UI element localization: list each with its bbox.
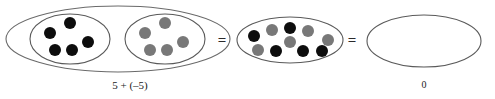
counter-dot: [177, 36, 189, 48]
equals-sign-2: =: [348, 32, 357, 48]
counter-dot: [44, 27, 56, 39]
expression-label: 5 + (–5): [112, 79, 148, 92]
counter-dot: [284, 22, 296, 34]
counter-dot: [322, 34, 334, 46]
counter-dot: [49, 44, 61, 56]
counter-dot: [64, 17, 76, 29]
counter-dot: [302, 25, 314, 37]
counter-dot: [284, 36, 296, 48]
positive-counter-dots: [44, 17, 94, 56]
positive-group: [30, 14, 110, 64]
counter-dot: [270, 45, 282, 57]
figure-canvas: = = 5 + (–5) 0: [0, 0, 495, 99]
negative-counter-dots: [139, 17, 189, 56]
zero-pair-model-diagram: = = 5 + (–5) 0: [0, 0, 495, 99]
equals-sign-1: =: [218, 32, 227, 48]
counter-dot: [252, 44, 264, 56]
counter-dot: [316, 45, 328, 57]
empty-result-ellipse: [367, 15, 481, 67]
combined-outer-group-ellipse: [6, 6, 230, 72]
combined-counters-group: [237, 17, 343, 63]
counter-dot: [144, 44, 156, 56]
counter-dot: [297, 45, 309, 57]
empty-result-group: [367, 15, 481, 67]
counter-dot: [161, 44, 173, 56]
counter-dot: [266, 24, 278, 36]
counter-dot: [159, 17, 171, 29]
counter-dot: [66, 44, 78, 56]
combined-counter-dots: [248, 22, 334, 57]
counter-dot: [248, 30, 260, 42]
counter-dot: [82, 36, 94, 48]
counter-dot: [139, 27, 151, 39]
result-label: 0: [422, 79, 427, 90]
negative-group: [125, 14, 205, 64]
